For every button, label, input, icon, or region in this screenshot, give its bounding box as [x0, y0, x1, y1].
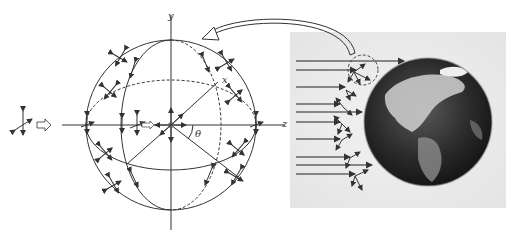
z-axis-label: z	[282, 118, 287, 129]
diag-lower-right	[171, 125, 238, 177]
y-axis-label: y	[168, 10, 174, 21]
earth-globe	[364, 58, 492, 186]
incident-light-symbol	[15, 111, 32, 135]
incident-hollow-arrow	[37, 119, 51, 131]
center-arrows	[155, 108, 186, 142]
diagram-canvas	[0, 0, 515, 240]
polarization-symbols	[81, 46, 263, 197]
theta-arc	[188, 125, 193, 139]
x-axis-label: x	[222, 74, 228, 85]
figure: y x z θ	[0, 0, 515, 240]
theta-label: θ	[195, 128, 201, 139]
